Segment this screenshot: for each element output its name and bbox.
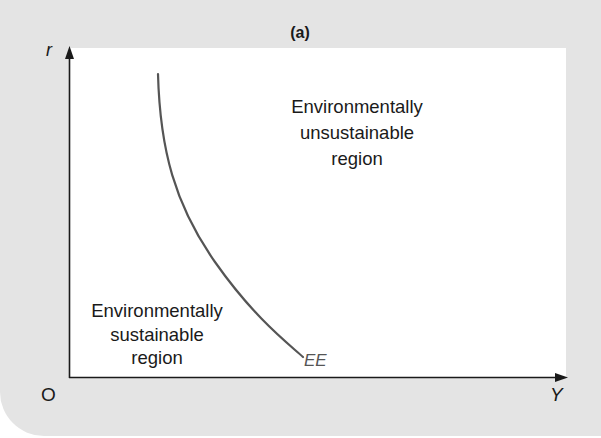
y-axis-label: r xyxy=(46,40,52,61)
origin-label: O xyxy=(41,384,56,406)
x-axis-label: Y xyxy=(550,384,563,406)
y-axis-arrow-icon xyxy=(65,46,74,59)
diagram-canvas xyxy=(0,0,601,438)
region-line: sustainable xyxy=(72,323,242,347)
region-line: Environmentally xyxy=(272,94,442,120)
region-line: unsustainable xyxy=(272,120,442,146)
x-axis-arrow-icon xyxy=(555,373,568,382)
ee-curve-label: EE xyxy=(304,351,327,371)
sustainable-region-label: Environmentally sustainable region xyxy=(72,299,242,370)
region-line: region xyxy=(72,346,242,370)
region-line: Environmentally xyxy=(72,299,242,323)
region-line: region xyxy=(272,146,442,172)
panel-title: (a) xyxy=(280,24,320,42)
unsustainable-region-label: Environmentally unsustainable region xyxy=(272,94,442,172)
